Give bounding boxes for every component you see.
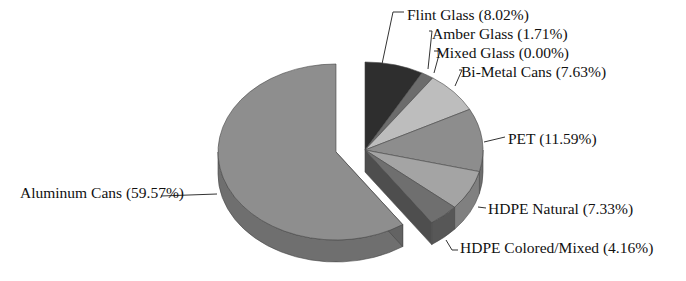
leader-line: [478, 207, 486, 208]
slice-label-amber-glass: Amber Glass (1.71%): [432, 25, 568, 43]
leader-line: [382, 12, 404, 64]
leader-line: [484, 137, 505, 142]
pie-slices: [218, 62, 483, 262]
slice-label-mixed-glass: Mixed Glass (0.00%): [436, 44, 569, 62]
slice-label-bi-metal-cans: Bi-Metal Cans (7.63%): [461, 63, 606, 81]
slice-label-flint-glass: Flint Glass (8.02%): [407, 6, 529, 24]
slice-label-hdpe-colored-mixed: HDPE Colored/Mixed (4.16%): [460, 239, 653, 257]
leader-line: [446, 240, 458, 250]
slice-label-hdpe-natural: HDPE Natural (7.33%): [488, 200, 633, 218]
slice-label-pet: PET (11.59%): [508, 130, 597, 148]
slice-label-aluminum-cans: Aluminum Cans (59.57%): [20, 184, 184, 202]
pie-chart: Flint Glass (8.02%)Amber Glass (1.71%)Mi…: [0, 0, 686, 281]
